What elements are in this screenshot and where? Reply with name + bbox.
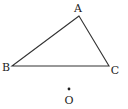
- vertex-label-b: B: [2, 62, 10, 73]
- vertex-label-c: C: [111, 65, 119, 76]
- point-label-o: O: [64, 95, 73, 106]
- vertex-label-a: A: [74, 3, 82, 14]
- point-o-dot: [68, 88, 71, 91]
- triangle-abc: [12, 16, 109, 66]
